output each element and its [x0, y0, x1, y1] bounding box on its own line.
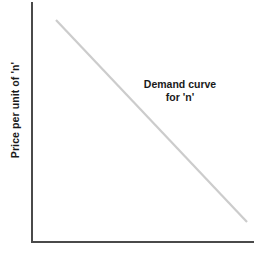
annotation-line-1: Demand curve: [144, 78, 216, 91]
x-axis-line: [31, 241, 254, 243]
y-axis-line: [31, 2, 33, 243]
y-axis-label: Price per unit of 'n': [9, 62, 21, 158]
demand-curve-annotation: Demand curve for 'n': [144, 78, 216, 104]
plot-area: [0, 0, 254, 256]
demand-curve-figure: Price per unit of 'n' Demand curve for '…: [0, 0, 254, 256]
demand-curve-line: [56, 20, 247, 222]
annotation-line-2: for 'n': [144, 91, 216, 104]
